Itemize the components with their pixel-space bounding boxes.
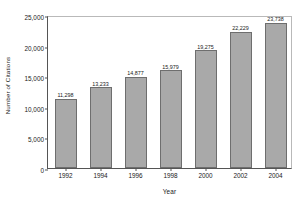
y-axis-tick-label: 25,000 bbox=[24, 14, 44, 21]
y-axis-tick-label: 15,000 bbox=[24, 75, 44, 82]
bar: 22,229 bbox=[230, 32, 252, 168]
x-axis-tick-mark bbox=[170, 168, 171, 171]
y-axis-title: Number of Citations bbox=[2, 0, 14, 170]
x-axis-tick-mark bbox=[205, 168, 206, 171]
x-axis-tick-mark bbox=[100, 168, 101, 171]
bar-group: 22,2292002 bbox=[223, 17, 258, 168]
citations-bar-chart: Number of Citations 05,00010,00015,00020… bbox=[0, 0, 301, 207]
bar: 23,738 bbox=[265, 23, 287, 168]
bar-value-label: 15,979 bbox=[162, 64, 179, 70]
bar-group: 23,7382004 bbox=[258, 17, 293, 168]
y-axis-tick-mark bbox=[45, 170, 48, 171]
bar: 11,298 bbox=[55, 99, 77, 168]
bar: 15,979 bbox=[160, 70, 182, 168]
x-axis-tick-label: 1996 bbox=[128, 172, 142, 179]
y-axis-tick-label: 10,000 bbox=[24, 105, 44, 112]
bar-group: 13,2331994 bbox=[83, 17, 118, 168]
bar-group: 11,2981992 bbox=[48, 17, 83, 168]
plot-area: 05,00010,00015,00020,00025,000 11,298199… bbox=[47, 16, 292, 169]
x-axis-tick-label: 1994 bbox=[93, 172, 107, 179]
x-axis-tick-label: 2000 bbox=[198, 172, 212, 179]
bar-value-label: 19,275 bbox=[197, 44, 214, 50]
y-axis-title-label: Number of Citations bbox=[5, 56, 12, 114]
bar-value-label: 22,229 bbox=[232, 25, 249, 31]
bars-layer: 11,298199213,233199414,877199615,9791998… bbox=[48, 17, 291, 168]
bar-value-label: 11,298 bbox=[57, 92, 73, 98]
bar: 14,877 bbox=[125, 77, 147, 168]
y-axis-tick-label: 20,000 bbox=[24, 44, 44, 51]
bar-value-label: 23,738 bbox=[267, 16, 284, 22]
x-axis-tick-mark bbox=[65, 168, 66, 171]
x-axis-tick-label: 2004 bbox=[268, 172, 282, 179]
bar: 13,233 bbox=[90, 87, 112, 168]
bar-group: 19,2752000 bbox=[188, 17, 223, 168]
bar-value-label: 14,877 bbox=[127, 70, 144, 76]
y-axis-tick-label: 0 bbox=[40, 167, 44, 174]
bar-group: 14,8771996 bbox=[118, 17, 153, 168]
y-axis-tick-label: 5,000 bbox=[28, 136, 44, 143]
bar-value-label: 13,233 bbox=[92, 81, 109, 87]
x-axis-tick-mark bbox=[275, 168, 276, 171]
x-axis-tick-label: 1992 bbox=[58, 172, 72, 179]
bar: 19,275 bbox=[195, 50, 217, 168]
x-axis-tick-label: 2002 bbox=[233, 172, 247, 179]
x-axis-title: Year bbox=[47, 188, 292, 195]
bar-group: 15,9791998 bbox=[153, 17, 188, 168]
x-axis-tick-label: 1998 bbox=[163, 172, 177, 179]
x-axis-tick-mark bbox=[240, 168, 241, 171]
x-axis-tick-mark bbox=[135, 168, 136, 171]
